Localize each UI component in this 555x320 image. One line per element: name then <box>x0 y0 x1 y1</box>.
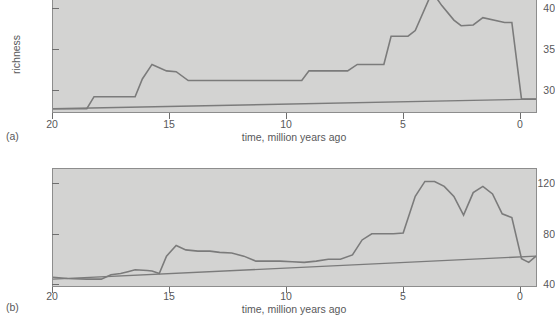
y-tick-mark-a-30 <box>52 90 59 91</box>
panel-label-a: (a) <box>6 130 19 142</box>
panel-label-b: (b) <box>6 301 19 313</box>
x-axis-title-b: time, million years ago <box>242 303 346 315</box>
y-tick-label-a-40: 40 <box>543 3 555 13</box>
y-tick-mark-a-40 <box>52 8 59 9</box>
plot-area-b <box>52 168 537 287</box>
x-tick-label-a-10: 10 <box>280 118 292 130</box>
chart-a-series-layer <box>53 0 536 112</box>
y-tick-label-a-35: 35 <box>543 44 555 54</box>
chart-b-series-layer <box>53 169 536 286</box>
x-axis-title-a: time, million years ago <box>242 131 346 143</box>
y-tick-mark-b-80 <box>52 234 59 235</box>
x-tick-label-a-0: 0 <box>517 118 523 130</box>
y-axis-title-a: richness <box>10 35 22 74</box>
panel-b: 120 80 40 richness <box>0 150 555 320</box>
x-tick-label-a-5: 5 <box>400 118 406 130</box>
trend-line-a <box>53 99 536 109</box>
richness-line-a <box>53 0 536 109</box>
x-tick-label-a-20: 20 <box>46 118 58 130</box>
x-tick-label-a-15: 15 <box>163 118 175 130</box>
plot-area-a <box>52 0 537 113</box>
richness-line-b <box>53 181 536 279</box>
y-tick-label-b-40: 40 <box>543 279 555 289</box>
y-tick-label-a-30: 30 <box>543 85 555 95</box>
y-tick-label-b-120: 120 <box>537 178 555 188</box>
y-tick-label-b-80: 80 <box>543 229 555 239</box>
x-tick-label-b-20: 20 <box>46 290 58 302</box>
x-tick-label-b-10: 10 <box>280 290 292 302</box>
x-tick-label-b-5: 5 <box>400 290 406 302</box>
x-tick-label-b-0: 0 <box>517 290 523 302</box>
panel-a: 40 35 30 richness <box>0 0 555 132</box>
trend-line-b <box>53 256 536 279</box>
figure-container: 40 35 30 richness 20 15 10 5 0 time, mil… <box>0 0 555 320</box>
y-tick-mark-b-40 <box>52 284 59 285</box>
x-tick-label-b-15: 15 <box>163 290 175 302</box>
y-tick-mark-b-120 <box>52 183 59 184</box>
y-tick-mark-a-35 <box>52 49 59 50</box>
